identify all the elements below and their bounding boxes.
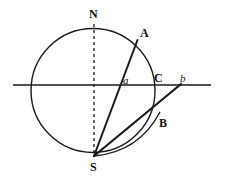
arc-S-to-B bbox=[94, 112, 160, 156]
label-S: S bbox=[90, 161, 97, 173]
label-A: A bbox=[140, 27, 149, 39]
celestial-circle bbox=[31, 29, 155, 153]
label-N: N bbox=[89, 8, 98, 20]
label-a: a bbox=[123, 75, 129, 86]
label-C: C bbox=[154, 72, 163, 84]
diagram-svg bbox=[0, 0, 225, 179]
label-B: B bbox=[159, 117, 167, 129]
label-b: b bbox=[180, 73, 186, 84]
figure-canvas: N A a C b B S bbox=[0, 0, 225, 179]
